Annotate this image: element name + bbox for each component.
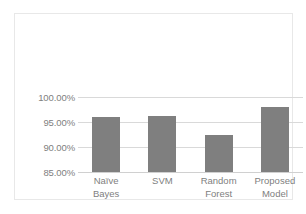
x-axis-label-random-forest: Random Forest: [191, 175, 247, 200]
x-axis-label-line2: Bayes: [78, 188, 134, 201]
x-axis-label-line1: Proposed: [255, 175, 296, 186]
bar-naive-bayes[interactable]: [92, 117, 120, 172]
bar-proposed-model[interactable]: [261, 107, 289, 172]
x-axis-label-line1: SVM: [152, 175, 173, 186]
x-axis-category-labels: Naïve Bayes SVM Random Forest Proposed M…: [78, 175, 303, 200]
y-axis-tick-label: 95.00%: [43, 117, 75, 128]
x-axis-label-line1: Naïve: [94, 175, 119, 186]
x-axis-label-line1: Random: [201, 175, 237, 186]
bar-random-forest[interactable]: [205, 135, 233, 172]
x-axis-label-line2: Model: [247, 188, 303, 201]
y-axis-tick-label: 90.00%: [43, 142, 75, 153]
x-axis-label-proposed-model: Proposed Model: [247, 175, 303, 200]
chart-frame: 100.00% 95.00% 90.00% 85.00% Naïve Bayes…: [14, 13, 293, 200]
x-axis-label-svm: SVM: [134, 175, 190, 200]
y-axis-tick-label: 85.00%: [43, 167, 75, 178]
bar-slot: [78, 97, 134, 172]
gridline-baseline: [78, 172, 303, 173]
bar-svm[interactable]: [148, 116, 176, 172]
y-axis-tick-labels: 100.00% 95.00% 90.00% 85.00%: [29, 97, 75, 172]
x-axis-label-naive-bayes: Naïve Bayes: [78, 175, 134, 200]
bar-slot: [247, 97, 303, 172]
y-axis-tick-label: 100.00%: [38, 92, 75, 103]
bar-slot: [191, 97, 247, 172]
bar-slot: [134, 97, 190, 172]
x-axis-label-line2: Forest: [191, 188, 247, 201]
bar-series: [78, 97, 303, 172]
